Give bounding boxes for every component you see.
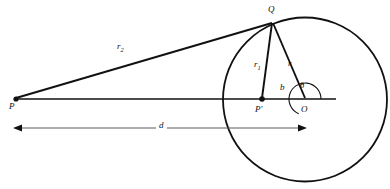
dimension-arrow-right <box>298 125 307 132</box>
segment-label-r2-subscript: 2 <box>121 46 124 53</box>
figure-canvas <box>0 0 390 189</box>
segment-label-r1-subscript: 1 <box>258 64 261 71</box>
point-label-p: P <box>9 102 15 111</box>
angle-label-theta: θ <box>300 81 304 90</box>
segment-label-r: r <box>288 59 292 70</box>
geometry-figure: P Q P′ O r2 r1 r b θ d <box>0 0 390 189</box>
segment-r1 <box>262 23 272 98</box>
dimension-arrow-left <box>13 125 22 132</box>
segment-label-r-base: r <box>288 58 292 68</box>
point-label-p-prime: P′ <box>255 105 262 114</box>
point-label-o: O <box>301 105 308 114</box>
dimension-label-d: d <box>156 121 167 130</box>
segment-label-r2: r2 <box>117 42 124 53</box>
segment-label-b: b <box>280 83 285 92</box>
point-label-q: Q <box>268 5 275 14</box>
segment-label-r1: r1 <box>254 60 261 71</box>
point-dot-p-prime <box>259 96 265 102</box>
